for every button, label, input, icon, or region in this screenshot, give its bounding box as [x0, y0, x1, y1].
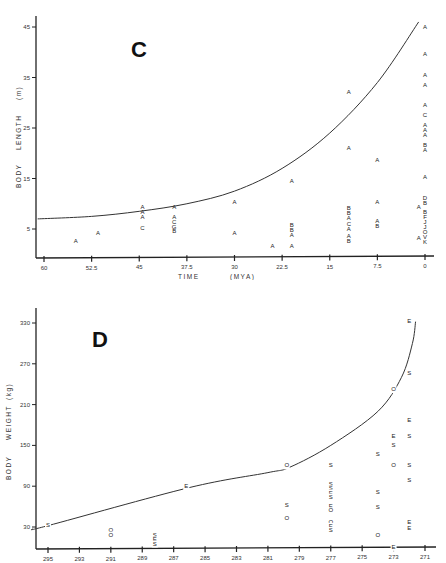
- y-tick-label: 330: [20, 320, 31, 326]
- data-point-label: E: [407, 417, 411, 423]
- data-point-label: A: [290, 178, 294, 184]
- x-tick-label: 277: [326, 555, 337, 561]
- data-point-label: S: [392, 442, 396, 448]
- data-point-label: S: [285, 502, 289, 508]
- y-tick-label: 210: [20, 402, 31, 408]
- data-point-label: S: [329, 527, 333, 533]
- data-point-label: A: [375, 157, 379, 163]
- y-tick-label: 35: [23, 75, 30, 81]
- chart-panel-d: 3302702101509030295293291289287285283281…: [0, 280, 446, 563]
- data-point-label: S: [407, 477, 411, 483]
- data-point-label: A: [375, 199, 379, 205]
- chart-c-plot: 4535251556052.54537.53022.5157.50AAAAACA…: [0, 0, 446, 280]
- y-tick-label: 90: [23, 483, 30, 489]
- x-tick-label: 15: [326, 264, 333, 270]
- data-point-label: S: [376, 504, 380, 510]
- data-point-label: B: [375, 223, 379, 229]
- data-point-label: S: [376, 451, 380, 457]
- data-point-label: S: [407, 370, 411, 376]
- x-tick-label: 289: [137, 555, 148, 561]
- data-point-label: C: [140, 225, 145, 231]
- x-tick-label: 295: [43, 556, 54, 562]
- x-tick-label: 285: [200, 555, 211, 561]
- data-point-label: A: [417, 204, 421, 210]
- data-point-label: C: [423, 112, 428, 118]
- data-point-label: E: [407, 318, 411, 324]
- chart-panel-c: 4535251556052.54537.53022.5157.50AAAAACA…: [0, 0, 446, 280]
- x-tick-label: 52.5: [86, 265, 98, 271]
- data-point-label: A: [140, 214, 144, 220]
- y-tick-label: 270: [20, 361, 31, 367]
- data-point-label: S: [376, 489, 380, 495]
- y-tick-label: 30: [23, 524, 30, 530]
- x-tick-label: 45: [136, 264, 143, 270]
- data-point-label: A: [347, 89, 351, 95]
- x-tick-label: 273: [389, 554, 400, 560]
- data-point-label: A: [74, 238, 78, 244]
- data-point-label: B: [172, 228, 176, 234]
- trend-curve: [31, 322, 415, 530]
- data-point-label: O: [391, 462, 396, 468]
- data-point-label: B: [347, 238, 351, 244]
- y-tick-label: 25: [23, 125, 30, 131]
- data-point-label: E: [392, 433, 396, 439]
- data-point-label: S: [329, 462, 333, 468]
- x-tick-label: 22.5: [276, 264, 288, 270]
- x-tick-label: 0: [423, 263, 427, 269]
- x-tick-label: 287: [169, 555, 180, 561]
- x-tick-label: 293: [74, 556, 85, 562]
- x-tick-label: 60: [41, 265, 48, 271]
- x-tick-label: 283: [231, 555, 242, 561]
- x-tick-label: 7.5: [373, 263, 382, 269]
- y-tick-label: 15: [23, 176, 30, 182]
- data-point-label: S: [153, 541, 157, 547]
- data-point-label: O: [284, 462, 289, 468]
- data-point-label: O: [108, 532, 113, 538]
- data-point-label: A: [290, 243, 294, 249]
- trend-curve: [38, 22, 419, 219]
- x-tick-label: 291: [106, 556, 117, 562]
- data-point-label: A: [96, 230, 100, 236]
- data-point-label: A: [423, 174, 427, 180]
- data-point-label: A: [232, 199, 236, 205]
- data-point-label: O: [328, 507, 333, 513]
- data-point-label: E: [407, 525, 411, 531]
- data-point-label: A: [271, 243, 275, 249]
- data-point-label: A: [423, 132, 427, 138]
- data-point-label: E: [184, 483, 188, 489]
- data-point-label: S: [407, 462, 411, 468]
- data-point-label: A: [423, 51, 427, 57]
- data-point-label: A: [423, 72, 427, 78]
- x-tick-label: 271: [420, 554, 431, 560]
- data-point-label: A: [232, 230, 236, 236]
- data-point-label: A: [423, 102, 427, 108]
- data-point-label: A: [172, 204, 176, 210]
- data-point-label: S: [407, 433, 411, 439]
- y-tick-label: 45: [23, 24, 30, 30]
- x-tick-label: 30: [231, 264, 238, 270]
- data-point-label: A: [423, 82, 427, 88]
- data-point-label: A: [417, 235, 421, 241]
- data-point-label: O: [376, 532, 381, 538]
- data-point-label: A: [347, 145, 351, 151]
- x-tick-label: 275: [357, 554, 368, 560]
- x-tick-label: 37.5: [181, 264, 193, 270]
- x-tick-label: 281: [263, 555, 274, 561]
- y-tick-label: 5: [27, 226, 31, 232]
- data-point-label: A: [423, 147, 427, 153]
- data-point-label: A: [347, 226, 351, 232]
- data-point-label: O: [284, 515, 289, 521]
- data-point-label: S: [46, 522, 50, 528]
- chart-d-plot: 3302702101509030295293291289287285283281…: [0, 280, 446, 563]
- data-point-label: O: [391, 386, 396, 392]
- x-tick-label: 279: [294, 555, 305, 561]
- data-point-label: A: [423, 24, 427, 30]
- y-tick-label: 150: [20, 442, 31, 448]
- data-point-label: E: [392, 544, 396, 550]
- data-point-label: K: [423, 239, 427, 245]
- data-point-label: B: [423, 200, 427, 206]
- data-point-label: S: [329, 494, 333, 500]
- data-point-label: A: [290, 232, 294, 238]
